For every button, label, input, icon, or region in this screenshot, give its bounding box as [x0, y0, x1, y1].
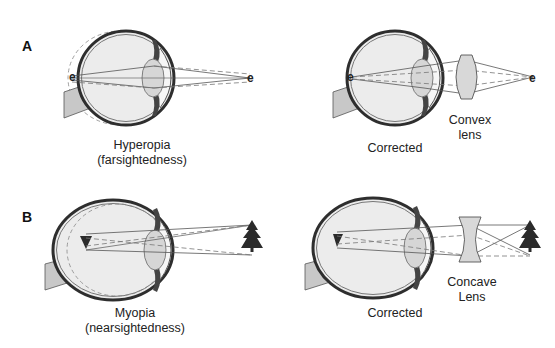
- concave-lens-icon: [459, 217, 481, 262]
- concave-lens-label-2: Lens: [440, 290, 504, 305]
- object-e: e: [247, 71, 254, 85]
- convex-lens-label-1: Convex: [440, 113, 500, 128]
- corrected-a-title: Corrected: [345, 141, 445, 156]
- convex-lens-caption: Convex lens: [440, 113, 500, 143]
- concave-lens-label-1: Concave: [440, 275, 504, 290]
- object-e-corrected: e: [529, 71, 536, 85]
- corrected-concave-eye: [305, 198, 541, 298]
- myopia-eye: [45, 200, 263, 300]
- hyperopia-subtitle: (farsightedness): [82, 153, 202, 168]
- corrected-convex-eye: [333, 31, 533, 125]
- myopia-title: Myopia: [70, 306, 200, 321]
- hyperopia-title: Hyperopia: [82, 138, 202, 153]
- concave-lens-caption: Concave Lens: [440, 275, 504, 305]
- corrected-b-title: Corrected: [345, 306, 445, 321]
- tree-icon: [241, 220, 263, 252]
- corrected-b-caption: Corrected: [345, 306, 445, 321]
- retina-image-e: e: [69, 70, 76, 84]
- convex-lens-icon: [456, 55, 477, 99]
- convex-lens-label-2: lens: [440, 128, 500, 143]
- corrected-a-caption: Corrected: [345, 141, 445, 156]
- myopia-caption: Myopia (nearsightedness): [70, 306, 200, 336]
- hyperopia-eye: [64, 31, 250, 125]
- retina-image-e-corrected: e: [347, 70, 354, 84]
- hyperopia-caption: Hyperopia (farsightedness): [82, 138, 202, 168]
- myopia-subtitle: (nearsightedness): [70, 321, 200, 336]
